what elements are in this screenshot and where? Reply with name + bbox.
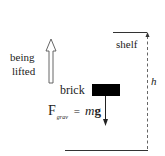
force-subscript: grav bbox=[57, 114, 68, 120]
gravity-force-label: Fgrav = mg bbox=[48, 102, 101, 118]
brick-label: brick bbox=[60, 84, 85, 96]
brick-block bbox=[92, 84, 120, 96]
diagram-canvas bbox=[0, 0, 165, 156]
mass-symbol: m bbox=[85, 103, 94, 118]
height-label: h bbox=[151, 76, 157, 87]
shelf-label: shelf bbox=[116, 39, 137, 50]
motion-label-line1: being bbox=[10, 52, 34, 63]
gravity-symbol: g bbox=[94, 103, 101, 118]
equals-sign: = bbox=[74, 105, 80, 117]
motion-label-line2: lifted bbox=[12, 66, 35, 77]
up-arrow-icon bbox=[46, 39, 56, 83]
force-symbol: F bbox=[48, 103, 56, 118]
gravity-arrowhead-icon bbox=[103, 119, 108, 126]
